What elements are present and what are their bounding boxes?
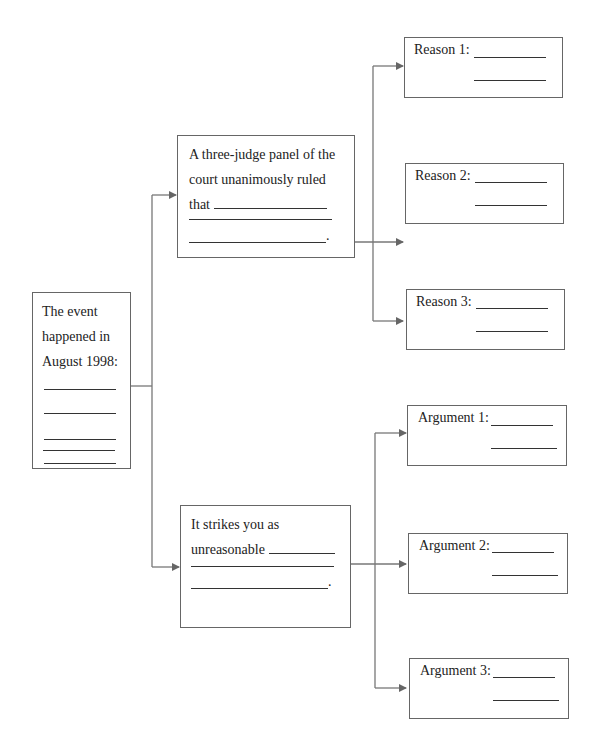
unreasonable-line-2: unreasonable	[191, 542, 265, 557]
reason-1-box: Reason 1:	[404, 37, 563, 98]
root-line-2: happened in	[42, 324, 118, 349]
unreasonable-period: .	[328, 574, 332, 590]
court-ruling-box: A three-judge panel of the court unanimo…	[177, 135, 355, 258]
root-blank-1[interactable]	[44, 389, 116, 390]
root-line-3: August 1998:	[42, 349, 118, 374]
reason-1-label: Reason 1:	[414, 42, 470, 57]
argument-2-blank-2[interactable]	[492, 575, 558, 576]
argument-3-label: Argument 3:	[420, 663, 491, 678]
unreasonable-blank-1[interactable]	[269, 553, 335, 554]
ruling-period: .	[326, 228, 330, 244]
root-blank-3[interactable]	[44, 439, 116, 440]
reason-3-label: Reason 3:	[416, 294, 472, 309]
ruling-line-2: court unanimously ruled	[189, 167, 335, 192]
reason-1-blank-1[interactable]	[474, 57, 546, 58]
reason-2-blank-2[interactable]	[475, 205, 547, 206]
reason-3-box: Reason 3:	[406, 289, 565, 350]
ruling-line-3: that	[189, 197, 210, 212]
unreasonable-box: It strikes you as unreasonable .	[180, 505, 351, 628]
ruling-blank-3[interactable]	[189, 242, 326, 243]
unreasonable-blank-3[interactable]	[191, 588, 328, 589]
argument-1-label: Argument 1:	[418, 410, 489, 425]
ruling-blank-2[interactable]	[189, 219, 332, 220]
unreasonable-line-1: It strikes you as	[191, 512, 335, 537]
argument-3-blank-2[interactable]	[493, 700, 559, 701]
ruling-line-1: A three-judge panel of the	[189, 142, 335, 167]
root-event-box: The event happened in August 1998:	[32, 292, 131, 469]
root-blank-4[interactable]	[43, 450, 115, 451]
unreasonable-blank-2[interactable]	[191, 566, 334, 567]
root-blank-2[interactable]	[44, 413, 116, 414]
reason-3-blank-2[interactable]	[476, 331, 548, 332]
ruling-blank-1[interactable]	[214, 208, 327, 209]
argument-2-blank-1[interactable]	[492, 552, 554, 553]
argument-1-blank-1[interactable]	[491, 425, 553, 426]
argument-2-label: Argument 2:	[419, 538, 490, 553]
argument-3-blank-1[interactable]	[493, 677, 555, 678]
argument-3-box: Argument 3:	[409, 658, 569, 719]
reason-3-blank-1[interactable]	[476, 308, 548, 309]
argument-2-box: Argument 2:	[408, 533, 568, 594]
argument-1-blank-2[interactable]	[491, 448, 557, 449]
root-blank-4[interactable]	[44, 463, 116, 464]
reason-1-blank-2[interactable]	[474, 80, 546, 81]
reason-2-blank-1[interactable]	[475, 182, 547, 183]
argument-1-box: Argument 1:	[407, 405, 567, 466]
reason-2-label: Reason 2:	[415, 168, 471, 183]
reason-2-box: Reason 2:	[405, 163, 564, 224]
root-line-1: The event	[42, 299, 118, 324]
